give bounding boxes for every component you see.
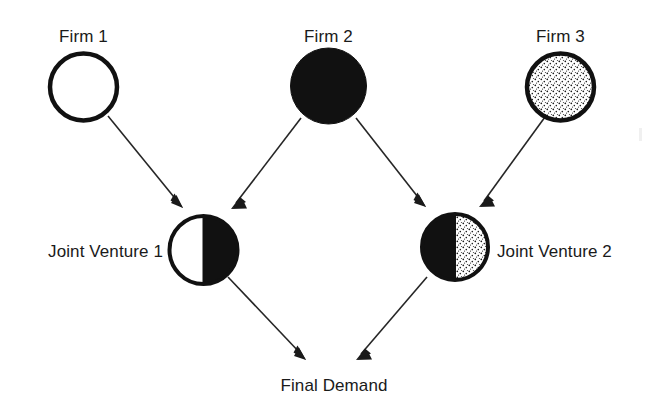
flow-diagram-svg: Firm 1 Firm 2 Firm 3 Joint Venture 1 Joi… xyxy=(0,0,661,410)
node-firm2[interactable] xyxy=(291,48,367,124)
node-jv1[interactable] xyxy=(170,214,244,288)
label-final-demand: Final Demand xyxy=(280,376,387,395)
edge-firm1-to-jv1 xyxy=(108,116,183,208)
label-jv2: Joint Venture 2 xyxy=(497,242,612,261)
edge-firm2-to-jv1 xyxy=(231,118,301,209)
node-jv2[interactable] xyxy=(420,212,493,284)
label-firm2: Firm 2 xyxy=(304,27,353,46)
label-firm1: Firm 1 xyxy=(59,27,108,46)
node-firm1[interactable] xyxy=(50,54,117,121)
diagram-canvas: Firm 1 Firm 2 Firm 3 Joint Venture 1 Joi… xyxy=(0,0,661,410)
edge-firm3-to-jv2 xyxy=(479,117,545,207)
edge-firm2-to-jv2 xyxy=(356,118,426,207)
edge-jv2-to-final-demand xyxy=(356,277,427,360)
scan-artifact xyxy=(639,128,642,141)
firm2-circle[interactable] xyxy=(291,48,367,124)
firm1-circle[interactable] xyxy=(50,54,117,121)
node-firm3[interactable] xyxy=(527,54,594,121)
label-firm3: Firm 3 xyxy=(536,27,585,46)
edge-jv1-to-final-demand xyxy=(228,277,306,360)
label-jv1: Joint Venture 1 xyxy=(48,242,163,261)
